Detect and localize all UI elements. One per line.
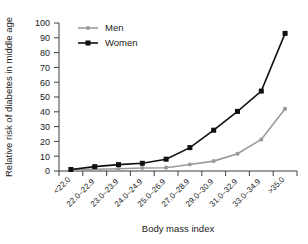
- data-point-women: [140, 161, 145, 166]
- y-tick-label: 90: [40, 33, 50, 43]
- data-point-women: [283, 31, 288, 36]
- y-tick-label: 10: [40, 152, 50, 162]
- y-tick-label: 0: [45, 166, 50, 176]
- y-tick-label: 70: [40, 63, 50, 73]
- data-point-men: [235, 152, 239, 156]
- data-point-men: [140, 166, 144, 170]
- data-point-women: [68, 167, 73, 172]
- y-tick-label: 20: [40, 137, 50, 147]
- data-point-women: [164, 157, 169, 162]
- y-tick-label: 60: [40, 78, 50, 88]
- data-point-men: [188, 162, 192, 166]
- data-point-women: [92, 164, 97, 169]
- data-point-men: [212, 159, 216, 163]
- legend-marker-men: [86, 26, 90, 30]
- data-point-women: [235, 109, 240, 114]
- y-tick-label: 80: [40, 48, 50, 58]
- y-tick-label: 30: [40, 122, 50, 132]
- legend-label-women: Women: [105, 37, 138, 48]
- data-point-men: [164, 166, 168, 170]
- data-point-men: [283, 107, 287, 111]
- legend-label-men: Men: [105, 22, 123, 33]
- x-axis-title: Body mass index: [142, 223, 215, 234]
- data-point-men: [116, 167, 120, 171]
- line-chart: Relative risk of diabetes in middle age …: [0, 0, 308, 244]
- y-tick-label: 40: [40, 107, 50, 117]
- data-point-men: [259, 137, 263, 141]
- data-point-women: [211, 128, 216, 133]
- data-point-women: [259, 89, 264, 94]
- y-tick-label: 100: [35, 18, 50, 28]
- data-point-women: [187, 145, 192, 150]
- legend-marker-women: [86, 41, 91, 46]
- y-tick-label: 50: [40, 92, 50, 102]
- y-axis-title: Relative risk of diabetes in middle age: [3, 17, 14, 177]
- chart-container: Relative risk of diabetes in middle age …: [0, 0, 308, 244]
- data-point-women: [116, 162, 121, 167]
